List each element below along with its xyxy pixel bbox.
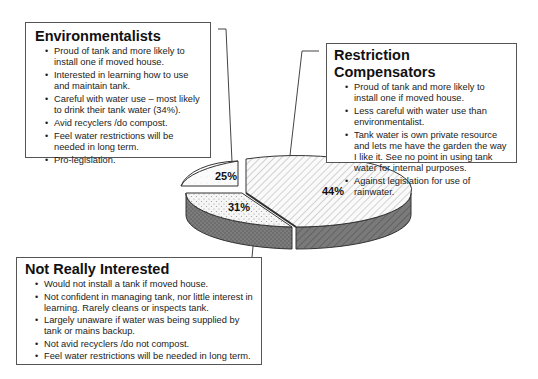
list-item: Avid recyclers /do compost. <box>54 118 204 129</box>
callout-list: Would not install a tank if moved house.… <box>25 279 256 362</box>
list-item: Proud of tank and more likely to install… <box>54 46 204 68</box>
label-not-really-interested: 31% <box>228 201 250 213</box>
list-item: Proud of tank and more likely to install… <box>354 82 511 104</box>
list-item: Tank water is own private resource and l… <box>354 130 511 174</box>
callout-title: Not Really Interested <box>25 261 256 278</box>
list-item: Pro-legislation. <box>54 155 204 166</box>
list-item: Would not install a tank if moved house. <box>44 279 256 290</box>
callout-environmentalists: Environmentalists Proud of tank and more… <box>25 22 211 158</box>
callout-title: Environmentalists <box>35 28 204 45</box>
list-item: Not avid recyclers /do not compost. <box>44 339 256 350</box>
leader-environmentalists <box>218 29 232 162</box>
callout-title: Restriction Compensators <box>334 47 511 81</box>
list-item: Against legislation for use of rainwater… <box>354 176 511 198</box>
callout-restriction-compensators: Restriction Compensators Proud of tank a… <box>326 43 517 163</box>
callout-list: Proud of tank and more likely to install… <box>334 82 511 198</box>
list-item: Interested in learning how to use and ma… <box>54 70 204 92</box>
list-item: Not confident in managing tank, nor litt… <box>44 292 256 314</box>
label-environmentalists: 25% <box>215 170 237 182</box>
list-item: Feel water restrictions will be needed i… <box>44 351 256 362</box>
list-item: Feel water restrictions will be needed i… <box>54 131 204 153</box>
list-item: Careful with water use – most likely to … <box>54 94 204 116</box>
list-item: Largely unaware if water was being suppl… <box>44 315 256 337</box>
list-item: Less careful with water use than environ… <box>354 106 511 128</box>
leader-restriction-compensators <box>289 51 319 164</box>
callout-not-really-interested: Not Really Interested Would not install … <box>16 257 262 365</box>
callout-list: Proud of tank and more likely to install… <box>35 46 204 166</box>
